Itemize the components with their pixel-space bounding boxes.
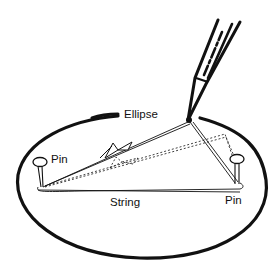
pin-right-label: Pin [225, 194, 242, 206]
ellipse-outline [17, 116, 266, 258]
pin-left-label: Pin [51, 153, 68, 165]
alternate-string-position [45, 134, 234, 187]
ellipse-diagram: Ellipse Pin Pin String [0, 0, 280, 275]
pencil [186, 20, 240, 123]
string-loop [38, 122, 243, 192]
ellipse-label: Ellipse [124, 108, 158, 120]
string-label: String [110, 196, 140, 208]
pin-left [33, 158, 47, 188]
